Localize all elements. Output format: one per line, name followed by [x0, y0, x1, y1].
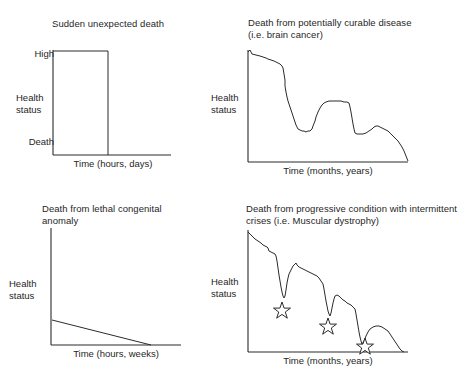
x-axis-label: Time (hours, days) — [53, 158, 173, 170]
trajectory-line — [248, 50, 408, 161]
x-axis-label: Time (hours, weeks) — [51, 348, 181, 360]
trajectory-line — [53, 51, 108, 155]
panel-lethal-congenital-anomaly: Death from lethal congenital anomaly Hea… — [0, 186, 238, 373]
panel-progressive-condition: Death from progressive condition with in… — [237, 186, 475, 373]
trajectory-line — [52, 320, 151, 345]
x-axis-label: Time (months, years) — [248, 165, 408, 177]
crisis-star-marker-2 — [320, 318, 337, 334]
plot-area-congenital — [0, 186, 238, 373]
four-trajectories-figure: Sudden unexpected death High Health stat… — [0, 0, 475, 373]
plot-area-curable-disease — [237, 0, 475, 187]
plot-area-progressive — [237, 186, 475, 373]
panel-curable-disease: Death from potentially curable disease (… — [237, 0, 475, 187]
crisis-star-marker-1 — [274, 302, 291, 318]
x-axis-label: Time (months, years) — [248, 355, 408, 367]
trajectory-line — [248, 232, 404, 352]
panel-sudden-unexpected-death: Sudden unexpected death High Health stat… — [0, 0, 238, 187]
